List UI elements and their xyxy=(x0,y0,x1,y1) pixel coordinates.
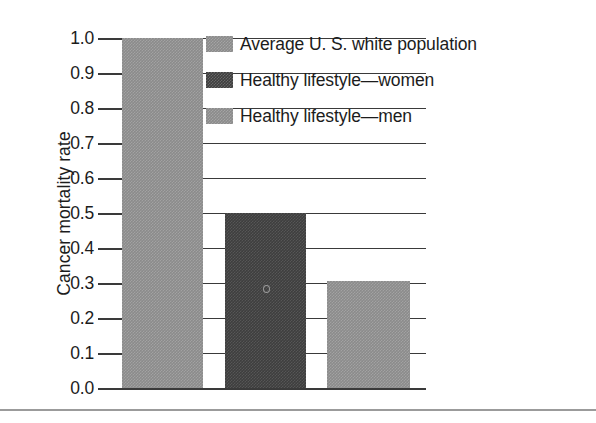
y-axis-tick-mark xyxy=(98,353,124,355)
bar xyxy=(122,38,203,388)
legend-item: Average U. S. white population xyxy=(206,26,536,62)
y-axis-tick-label: 0.1 xyxy=(48,343,94,364)
legend-item: Healthy lifestyle—men xyxy=(206,98,536,134)
y-axis-tick-mark xyxy=(98,108,124,110)
y-axis-tick-label: 1.0 xyxy=(48,28,94,49)
y-axis-tick-mark xyxy=(98,283,124,285)
y-axis-tick-label: 0.0 xyxy=(48,378,94,399)
legend-swatch-icon xyxy=(206,72,233,88)
y-axis-tick-mark xyxy=(98,318,124,320)
chart-legend: Average U. S. white populationHealthy li… xyxy=(206,26,536,134)
legend-item: Healthy lifestyle—women xyxy=(206,62,536,98)
y-axis-tick-label: 0.5 xyxy=(48,203,94,224)
bar xyxy=(225,213,306,388)
y-axis-tick-label: 0.2 xyxy=(48,308,94,329)
legend-swatch-icon xyxy=(206,108,233,124)
bar xyxy=(327,281,410,388)
y-axis-tick-mark xyxy=(98,73,124,75)
y-axis-tick-label: 0.4 xyxy=(48,238,94,259)
legend-item-label: Healthy lifestyle—men xyxy=(240,106,412,127)
scan-artifact-speck xyxy=(263,285,270,293)
y-axis-tick-label: 0.9 xyxy=(48,63,94,84)
legend-item-label: Average U. S. white population xyxy=(240,34,477,55)
legend-item-label: Healthy lifestyle—women xyxy=(240,70,434,91)
y-axis-tick-label: 0.3 xyxy=(48,273,94,294)
figure-bottom-rule xyxy=(0,409,596,411)
legend-swatch-icon xyxy=(206,36,233,52)
y-axis-tick-mark xyxy=(98,178,124,180)
chart-figure: Cancer mortality rate 1.00.90.80.70.60.5… xyxy=(0,0,596,423)
y-axis-tick-mark xyxy=(98,143,124,145)
y-axis-tick-label: 0.7 xyxy=(48,133,94,154)
y-axis-tick-mark xyxy=(98,213,124,215)
y-axis-tick-label: 0.6 xyxy=(48,168,94,189)
y-axis-tick-label: 0.8 xyxy=(48,98,94,119)
y-axis-tick-mark xyxy=(98,38,124,40)
y-axis-tick-mark xyxy=(98,248,124,250)
x-axis-baseline xyxy=(98,388,426,390)
